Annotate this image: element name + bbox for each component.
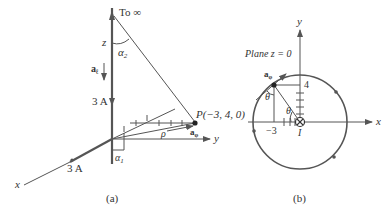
point-p-label: P(−3, 4, 0) xyxy=(195,108,245,121)
a-l-label: aℓ xyxy=(91,63,99,76)
theta-upper-label: θ xyxy=(265,91,270,102)
alpha2-label: α2 xyxy=(118,46,128,60)
panel-b: y Plane z = 0 aφ 4 θ θ −3 I x (b) xyxy=(244,15,381,205)
plane-label: Plane z = 0 xyxy=(244,48,291,59)
to-infinity-label: To ∞ xyxy=(119,6,141,18)
current-label: I xyxy=(297,127,302,138)
theta-lower-label: θ xyxy=(286,105,291,116)
alpha2-arc xyxy=(112,39,129,44)
x-axis xyxy=(24,162,70,185)
circle-dot-right xyxy=(334,90,338,94)
alpha1-label: α1 xyxy=(115,152,124,165)
z-label: z xyxy=(101,36,107,48)
point-b xyxy=(271,82,276,87)
y-axis-label-b: y xyxy=(296,15,302,27)
current-upper-label: 3 A xyxy=(92,95,108,107)
a-phi-label-b: aφ xyxy=(264,69,273,80)
current-into-page-icon xyxy=(296,118,305,127)
radius-line xyxy=(274,85,300,122)
panel-a: To ∞ z α2 aℓ 3 A P(−3, 4, 0) ρ aφ y α1 3… xyxy=(14,6,245,205)
x-axis-label-b: x xyxy=(375,115,381,127)
wire-arrow-mid-icon xyxy=(109,98,115,106)
circle-dot-bottom xyxy=(332,155,336,159)
alpha1-bracket xyxy=(112,133,124,150)
caption-b: (b) xyxy=(293,192,306,205)
y-axis-label-a: y xyxy=(213,132,219,144)
figure: To ∞ z α2 aℓ 3 A P(−3, 4, 0) ρ aφ y α1 3… xyxy=(0,0,391,216)
a-phi-label-a: aφ xyxy=(190,127,199,138)
wire-arrow-top-icon xyxy=(109,10,115,20)
x-axis-label-a: x xyxy=(14,178,20,190)
tick-neg3-label: −3 xyxy=(266,125,277,136)
current-lower-label: 3 A xyxy=(67,162,83,174)
caption-a: (a) xyxy=(106,192,119,205)
tick-4-label: 4 xyxy=(304,79,309,90)
circle-dot-left xyxy=(252,129,256,133)
rho-label: ρ xyxy=(160,128,166,139)
line-top-to-p xyxy=(114,16,195,122)
x-axis-wire xyxy=(70,139,112,162)
point-p xyxy=(192,120,197,125)
